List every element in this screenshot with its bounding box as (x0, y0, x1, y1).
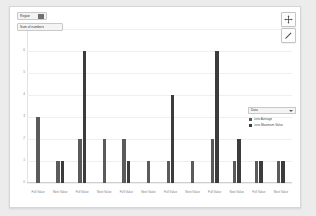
legend-dropdown[interactable]: Data (248, 107, 296, 114)
legend-item[interactable]: Less Maximum Value (248, 122, 296, 128)
x-tick-label: Next Value (93, 187, 115, 197)
x-tick-labels: Full ValueNext ValueFull ValueNext Value… (27, 187, 292, 197)
bar[interactable] (233, 161, 236, 183)
bar-group (204, 29, 226, 183)
legend-color-swatch (249, 124, 252, 127)
bar[interactable] (56, 161, 59, 183)
legend-color-swatch (249, 118, 252, 121)
edit-button[interactable] (281, 28, 296, 43)
y-tick-label: 2 (16, 137, 25, 140)
pan-button[interactable] (281, 12, 296, 27)
x-tick-label: Full Value (248, 187, 270, 197)
y-tick-label: 1 (16, 159, 25, 162)
bar-series-container (27, 29, 292, 183)
measure-pill-label: Sum of numbers (20, 23, 44, 31)
chart-card: Region Sum of numbers 7654321 (9, 6, 301, 208)
bar-group (182, 29, 204, 183)
x-tick-label: Next Value (226, 187, 248, 197)
bar-group (49, 29, 71, 183)
bar[interactable] (255, 161, 258, 183)
y-tick-label: 3 (16, 115, 25, 118)
control-stack: Region Sum of numbers (17, 12, 63, 31)
bar[interactable] (36, 117, 39, 183)
x-tick-label: Next Value (137, 187, 159, 197)
bar[interactable] (237, 139, 240, 183)
bar[interactable] (215, 51, 218, 183)
bar[interactable] (191, 161, 194, 183)
bar[interactable] (211, 139, 214, 183)
x-tick-label: Full Value (204, 187, 226, 197)
legend: Data Less AverageLess Maximum Value (248, 107, 296, 128)
bar-group (71, 29, 93, 183)
x-tick-label: Next Value (182, 187, 204, 197)
bar[interactable] (127, 161, 130, 183)
x-tick-label: Full Value (115, 187, 137, 197)
x-tick-label: Full Value (159, 187, 181, 197)
y-tick-label: 5 (16, 71, 25, 74)
plot-area: 76543210 (27, 29, 292, 183)
y-tick-label: 4 (16, 93, 25, 96)
x-tick-label: Full Value (27, 187, 49, 197)
bar[interactable] (83, 51, 86, 183)
bar-group (137, 29, 159, 183)
measure-pill[interactable]: Sum of numbers (17, 23, 63, 31)
y-tick-label: 0 (16, 181, 25, 184)
bar-group (270, 29, 292, 183)
chevron-down-icon (289, 110, 293, 112)
bar[interactable] (122, 139, 125, 183)
filter-pill-label: Region (20, 12, 30, 20)
bar[interactable] (277, 161, 280, 183)
legend-item-label: Less Maximum Value (254, 122, 283, 128)
filter-pill[interactable]: Region (17, 12, 47, 20)
bar-group (248, 29, 270, 183)
bar-group (159, 29, 181, 183)
bar[interactable] (259, 161, 262, 183)
bar[interactable] (147, 161, 150, 183)
bar[interactable] (171, 95, 174, 183)
filter-swatch-icon (38, 14, 44, 19)
bar[interactable] (167, 161, 170, 183)
app-root: Region Sum of numbers 7654321 (0, 0, 316, 216)
bar-group (226, 29, 248, 183)
bar-group (93, 29, 115, 183)
bar[interactable] (61, 161, 64, 183)
bar[interactable] (281, 161, 284, 183)
move-cross-icon (284, 15, 293, 24)
bar-group (27, 29, 49, 183)
bar[interactable] (78, 139, 81, 183)
legend-entries: Less AverageLess Maximum Value (248, 114, 296, 128)
legend-title: Data (251, 107, 258, 114)
x-tick-label: Next Value (270, 187, 292, 197)
x-tick-label: Next Value (49, 187, 71, 197)
grid-line (27, 183, 292, 184)
y-tick-label: 6 (16, 49, 25, 52)
bar-group (115, 29, 137, 183)
pencil-icon (284, 31, 293, 40)
x-tick-label: Full Value (71, 187, 93, 197)
bar[interactable] (103, 139, 106, 183)
